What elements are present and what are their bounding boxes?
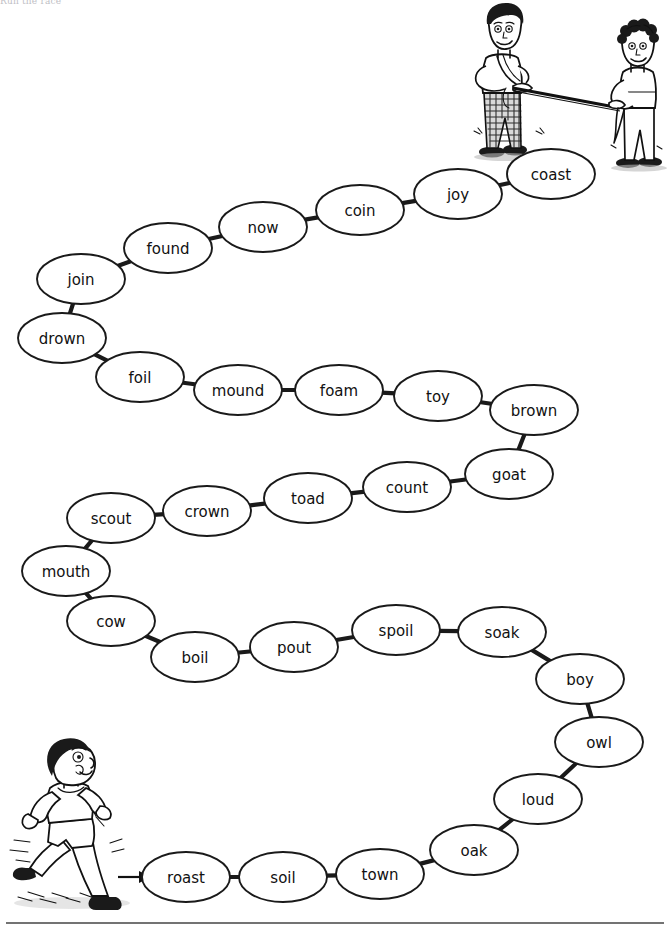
word-oval-label: join: [66, 271, 94, 289]
word-oval-label: soil: [270, 869, 295, 887]
word-oval[interactable]: pout: [250, 622, 338, 672]
word-oval[interactable]: scout: [67, 493, 155, 543]
word-oval[interactable]: soak: [458, 607, 546, 657]
track-link: [518, 433, 525, 451]
word-oval[interactable]: owl: [555, 717, 643, 767]
track-link: [145, 635, 162, 642]
word-oval[interactable]: boy: [536, 654, 624, 704]
word-oval-label: brown: [511, 402, 557, 420]
word-oval[interactable]: roast: [142, 852, 230, 902]
word-oval[interactable]: count: [363, 462, 451, 512]
word-oval[interactable]: joy: [414, 169, 502, 219]
word-oval[interactable]: drown: [18, 313, 106, 363]
word-oval-label: coast: [531, 166, 571, 184]
word-oval-label: mouth: [42, 563, 91, 581]
word-oval[interactable]: coin: [316, 185, 404, 235]
word-oval[interactable]: mouth: [22, 546, 110, 596]
track-link: [587, 702, 592, 719]
word-oval[interactable]: cow: [67, 596, 155, 646]
word-oval-label: crown: [184, 503, 229, 521]
word-oval[interactable]: boil: [151, 632, 239, 682]
word-oval-label: pout: [277, 639, 311, 657]
word-oval[interactable]: oak: [430, 825, 518, 875]
word-oval[interactable]: town: [336, 849, 424, 899]
word-oval-label: boy: [566, 671, 594, 689]
track-link: [248, 503, 266, 505]
word-oval[interactable]: found: [124, 223, 212, 273]
word-oval-label: found: [147, 240, 190, 258]
word-chain-track: roastsoiltownoakloudowlboysoakspoilpoutb…: [0, 0, 670, 931]
word-oval[interactable]: mound: [194, 365, 282, 415]
word-oval[interactable]: now: [219, 202, 307, 252]
word-oval[interactable]: toad: [264, 473, 352, 523]
word-oval-label: mound: [212, 382, 264, 400]
word-oval[interactable]: foil: [96, 352, 184, 402]
word-oval-label: roast: [167, 869, 205, 887]
word-oval[interactable]: goat: [465, 449, 553, 499]
word-oval-label: foam: [320, 382, 358, 400]
word-oval-label: boil: [181, 649, 208, 667]
word-oval[interactable]: join: [37, 254, 125, 304]
word-oval-label: joy: [446, 186, 469, 204]
word-oval-label: count: [386, 479, 428, 497]
word-oval-label: now: [248, 219, 279, 237]
word-oval[interactable]: loud: [494, 774, 582, 824]
word-oval[interactable]: brown: [490, 385, 578, 435]
track-nodes: roastsoiltownoakloudowlboysoakspoilpoutb…: [18, 149, 643, 902]
word-oval-label: cow: [96, 613, 126, 631]
word-oval-label: spoil: [379, 622, 414, 640]
word-oval[interactable]: coast: [507, 149, 595, 199]
track-link: [531, 649, 551, 661]
word-oval-label: toad: [291, 490, 325, 508]
word-oval-label: soak: [485, 624, 520, 642]
track-link: [448, 479, 467, 481]
worksheet-page: Run the race: [0, 0, 670, 931]
word-oval-label: goat: [492, 466, 526, 484]
track-link: [335, 637, 356, 640]
word-oval[interactable]: crown: [163, 486, 251, 536]
word-oval-label: coin: [344, 202, 375, 220]
word-oval-label: oak: [460, 842, 487, 860]
word-oval[interactable]: spoil: [352, 605, 440, 655]
word-oval-label: foil: [129, 369, 152, 387]
track-link: [560, 762, 577, 778]
word-oval-label: toy: [426, 388, 450, 406]
word-oval[interactable]: foam: [295, 365, 383, 415]
word-oval[interactable]: toy: [394, 371, 482, 421]
word-oval-label: scout: [91, 510, 132, 528]
word-oval-label: drown: [39, 330, 85, 348]
word-oval-label: town: [362, 866, 399, 884]
word-oval[interactable]: soil: [239, 852, 327, 902]
word-oval-label: owl: [586, 734, 612, 752]
track-link: [498, 818, 513, 830]
word-oval-label: loud: [522, 791, 554, 809]
